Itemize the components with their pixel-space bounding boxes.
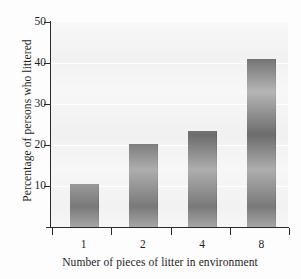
- plot-area: [51, 22, 288, 227]
- x-tick-mark: [111, 228, 112, 235]
- y-tick-label: 30: [20, 98, 46, 109]
- bar: [188, 131, 217, 227]
- x-tick-mark: [289, 228, 290, 235]
- y-tick-label: 10: [20, 180, 46, 191]
- x-axis-title: Number of pieces of litter in environmen…: [30, 256, 290, 268]
- bar-chart-figure: Percentage of persons who littered 10203…: [0, 0, 301, 279]
- y-tick-mark: [44, 186, 51, 187]
- y-tick-mark: [44, 22, 51, 23]
- y-tick-label: 40: [20, 57, 46, 68]
- x-tick-label: 4: [187, 238, 217, 251]
- y-tick-label: 20: [20, 139, 46, 150]
- y-tick-mark: [44, 63, 51, 64]
- x-axis-line: [46, 227, 289, 228]
- bar: [70, 184, 99, 227]
- y-tick-mark: [44, 145, 51, 146]
- y-tick-label: 50: [20, 16, 46, 27]
- x-tick-mark: [52, 228, 53, 235]
- bar: [129, 144, 158, 227]
- y-axis-tick-labels: 1020304050: [16, 0, 46, 279]
- x-tick-mark: [171, 228, 172, 235]
- x-tick-mark: [230, 228, 231, 235]
- x-tick-label: 8: [246, 238, 276, 251]
- bar: [247, 59, 276, 227]
- x-tick-label: 1: [69, 238, 99, 251]
- y-axis-line: [50, 21, 51, 228]
- x-tick-label: 2: [128, 238, 158, 251]
- y-tick-mark: [44, 104, 51, 105]
